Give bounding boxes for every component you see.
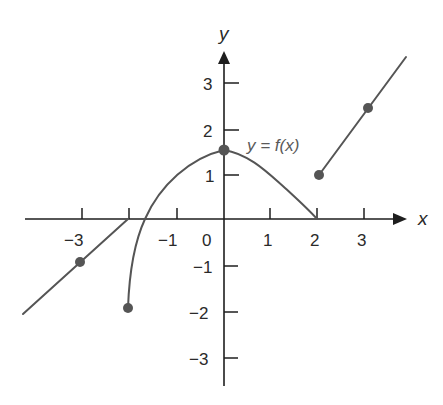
x-tick-label-0: 0 — [202, 231, 211, 250]
function-label: y = f(x) — [246, 136, 299, 155]
axes — [25, 60, 400, 386]
y-axis-label: y — [217, 23, 230, 44]
x-tick-label-1: 1 — [263, 231, 272, 250]
x-axis-label: x — [417, 208, 429, 229]
x-tick-label-2: 2 — [310, 231, 319, 250]
x-ticks — [82, 208, 364, 219]
x-tick-label-m1: −1 — [158, 231, 177, 250]
y-tick-label-m1: −1 — [193, 258, 212, 277]
y-tick-label-3: 3 — [203, 75, 212, 94]
right-segment — [319, 57, 406, 175]
x-tick-label-m3: −3 — [64, 231, 83, 250]
point-3 — [363, 103, 373, 113]
point-peak — [219, 145, 230, 156]
function-graph: −3 −1 0 1 2 3 3 2 1 −1 −2 −3 x y y = f(x… — [0, 0, 443, 405]
y-tick-label-m3: −3 — [189, 350, 208, 369]
point-neg2-bottom — [123, 303, 133, 313]
x-axis-arrow-icon — [393, 213, 407, 225]
middle-curve — [128, 150, 317, 308]
point-neg3 — [75, 257, 85, 267]
y-tick-label-2: 2 — [203, 122, 212, 141]
point-2-1 — [314, 170, 324, 180]
y-tick-label-m2: −2 — [189, 304, 208, 323]
y-tick-label-1: 1 — [205, 167, 214, 186]
y-ticks — [224, 83, 239, 358]
function-plot — [23, 57, 406, 314]
x-tick-label-3: 3 — [357, 231, 366, 250]
y-axis-arrow-icon — [218, 51, 230, 64]
